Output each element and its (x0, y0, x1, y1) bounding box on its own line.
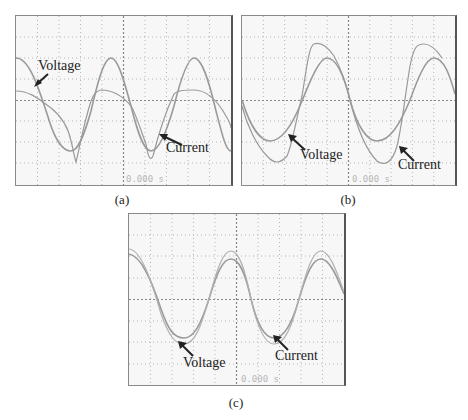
caption-a: (a) (102, 192, 142, 208)
timestamp-b: 0.000 s (352, 174, 390, 184)
timestamp-a: 0.000 s (126, 174, 164, 184)
voltage-arrow-c (177, 340, 197, 360)
scope-traces-a (16, 16, 231, 185)
voltage-arrow-b (287, 133, 309, 153)
caption-b: (b) (328, 192, 368, 208)
oscilloscope-a: 0.000 s (15, 15, 233, 186)
current-arrow-b (398, 145, 418, 165)
current-arrow-c (272, 334, 292, 354)
voltage-arrow-a (33, 72, 53, 88)
caption-c: (c) (216, 395, 256, 411)
timestamp-c: 0.000 s (241, 374, 279, 384)
current-arrow-a (158, 132, 184, 148)
